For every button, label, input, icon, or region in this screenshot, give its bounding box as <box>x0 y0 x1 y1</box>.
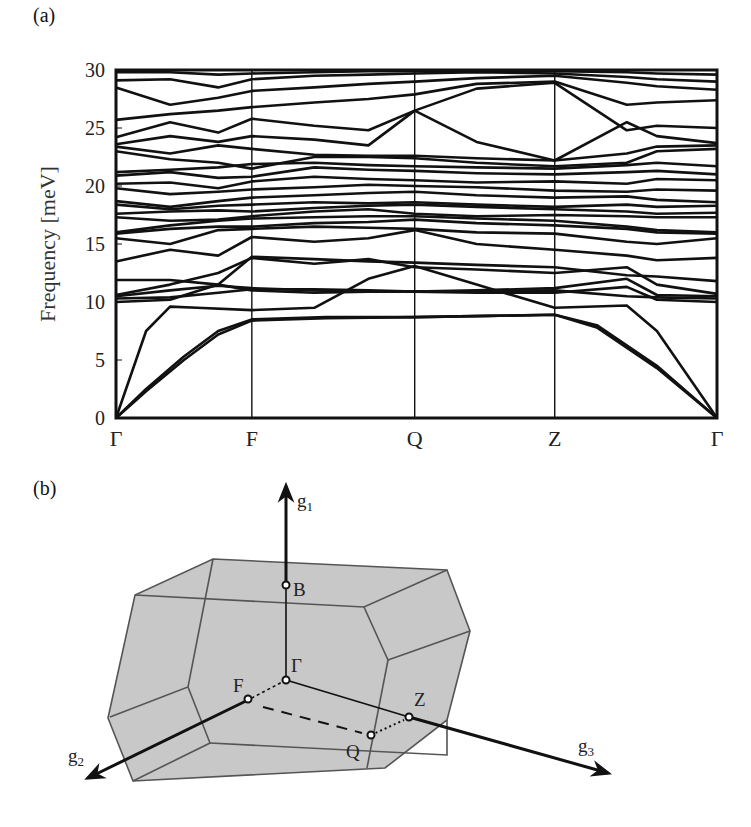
point-gamma <box>283 677 290 684</box>
label-g1: g1 <box>297 490 313 514</box>
point-z <box>406 714 413 721</box>
y-tick-label: 10 <box>85 291 105 313</box>
symmetry-lines <box>252 70 555 418</box>
label-gamma: Γ <box>291 655 302 676</box>
y-tick-label: 25 <box>85 117 105 139</box>
band-b26 <box>116 76 717 105</box>
label-q: Q <box>346 741 360 762</box>
figure-canvas: 051015202530 ΓFQZΓ Frequency [meV] <box>0 0 751 827</box>
x-axis-kpoint-labels: ΓFQZΓ <box>110 426 724 451</box>
band-acoustic-1 <box>116 315 717 418</box>
label-b: B <box>293 579 306 600</box>
y-tick-label: 30 <box>85 59 105 81</box>
point-f <box>245 696 252 703</box>
x-tick-label: Γ <box>110 426 123 451</box>
brillouin-zone-diagram: B Γ F Q Z g1 g2 g3 <box>68 486 608 781</box>
point-q <box>368 732 375 739</box>
band-b24 <box>116 83 717 138</box>
x-tick-label: Q <box>407 426 423 451</box>
x-tick-label: Z <box>548 426 561 451</box>
y-tick-label: 5 <box>95 349 105 371</box>
x-tick-label: F <box>246 426 258 451</box>
y-tick-label: 0 <box>95 407 105 429</box>
label-g3: g3 <box>578 735 594 759</box>
point-b <box>283 582 290 589</box>
label-f: F <box>233 675 244 696</box>
band-lines <box>116 71 717 418</box>
label-z: Z <box>414 689 426 710</box>
band-acoustic-2 <box>116 315 717 418</box>
label-g2: g2 <box>68 745 84 769</box>
y-axis-title: Frequency [meV] <box>35 166 60 322</box>
band-b8 <box>116 257 717 285</box>
phonon-dispersion-plot: 051015202530 ΓFQZΓ Frequency [meV] <box>35 59 724 451</box>
x-tick-label: Γ <box>711 426 724 451</box>
y-tick-label: 20 <box>85 175 105 197</box>
y-tick-label: 15 <box>85 233 105 255</box>
